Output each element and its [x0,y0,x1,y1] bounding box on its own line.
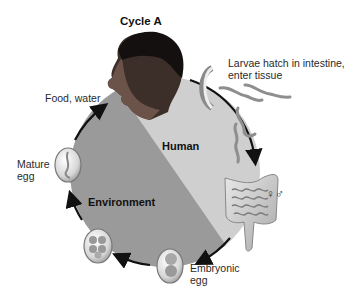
environment-region-label: Environment [88,196,155,208]
food-water-label: Food, water [45,92,100,104]
larvae-label: Larvae hatch in intestine, enter tissue [228,57,345,81]
human-region-label: Human [162,140,199,152]
mature-egg-icon [55,148,81,182]
life-cycle-diagram: Cycle A Food, water Larvae hatch in inte… [0,0,359,301]
intestine-icon [225,175,278,252]
embryonic-egg-icon [157,249,183,283]
mature-egg-label: Mature egg [17,158,50,182]
diagram-title: Cycle A [120,15,162,27]
embryonic-egg-label: Embryonic egg [190,262,240,286]
sex-symbols-label: ♀♂ [266,188,284,200]
developing-egg-icon [84,229,112,263]
